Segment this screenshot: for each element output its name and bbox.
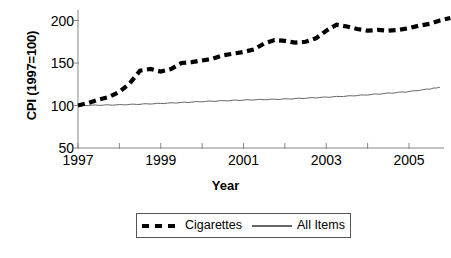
dashed-line-swatch-icon [142, 224, 180, 228]
x-axis-tick-labels: 19971999200120032005 [0, 152, 451, 172]
chart-legend: Cigarettes All Items [136, 213, 351, 238]
solid-line-swatch-icon [252, 225, 292, 227]
x-tick-label: 2005 [379, 152, 439, 168]
x-axis-title: Year [0, 178, 451, 193]
legend-entry-cigarettes: Cigarettes [142, 219, 242, 232]
legend-entry-all-items: All Items [252, 219, 345, 232]
x-tick-label: 2001 [213, 152, 273, 168]
legend-label-all-items: All Items [296, 219, 345, 232]
series-cigarettes-line [78, 18, 450, 106]
axis-ticks [74, 21, 409, 150]
x-tick-label: 1999 [131, 152, 191, 168]
series-all-items-line [78, 87, 440, 105]
x-tick-label: 2003 [296, 152, 356, 168]
cpi-line-chart: CPI (1997=100) 50100150200 1997199920012… [0, 0, 451, 258]
x-tick-label: 1997 [48, 152, 108, 168]
legend-label-cigarettes: Cigarettes [184, 219, 242, 232]
